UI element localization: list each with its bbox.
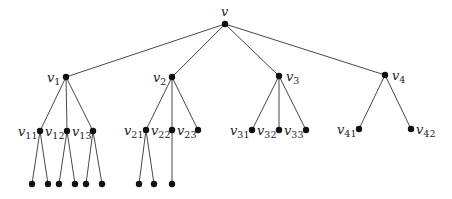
node-label-v12: v12: [45, 124, 64, 141]
edge-v-v2: [172, 24, 225, 77]
node-v42: [408, 126, 414, 132]
edges-layer: [32, 24, 411, 184]
edge-v-v3: [225, 24, 279, 76]
edge-v13-l132: [93, 131, 102, 184]
node-label-v32: v32: [257, 123, 276, 140]
node-label-v22: v22: [151, 123, 170, 140]
node-v11: [37, 128, 43, 134]
edge-v21-l212: [146, 130, 154, 184]
node-l122: [72, 181, 78, 187]
edge-v3-v31: [252, 76, 279, 130]
node-v12: [64, 128, 70, 134]
node-v: [222, 21, 228, 27]
node-l112: [45, 181, 51, 187]
node-label-v23: v23: [177, 123, 196, 140]
node-l212: [151, 181, 157, 187]
node-label-v4: v4: [392, 68, 405, 85]
node-l131: [83, 181, 89, 187]
node-label-v41: v41: [337, 122, 356, 139]
nodes-layer: [29, 21, 414, 187]
node-v32: [276, 127, 282, 133]
node-label-v13: v13: [72, 124, 91, 141]
node-v21: [143, 127, 149, 133]
edge-v1-v13: [66, 77, 93, 131]
node-v33: [303, 127, 309, 133]
edge-v-v4: [225, 24, 385, 75]
edge-v2-v23: [172, 77, 198, 130]
node-v41: [356, 126, 362, 132]
tree-diagram: vv1v2v3v4v11v12v13v21v22v23v31v32v33v41v…: [0, 0, 452, 199]
node-label-v: v: [221, 4, 229, 19]
edge-v1-v11: [40, 77, 66, 131]
edge-v1-v12: [66, 77, 67, 131]
node-label-v42: v42: [416, 122, 435, 139]
node-label-v33: v33: [284, 123, 303, 140]
node-l211: [136, 181, 142, 187]
node-label-v31: v31: [230, 123, 249, 140]
node-label-v3: v3: [286, 69, 299, 86]
node-l221: [169, 181, 175, 187]
node-label-v2: v2: [153, 70, 166, 87]
node-v1: [63, 74, 69, 80]
node-label-v11: v11: [18, 124, 37, 141]
node-v3: [276, 73, 282, 79]
node-l121: [56, 181, 62, 187]
node-v2: [169, 74, 175, 80]
node-v4: [382, 72, 388, 78]
edge-v4-v42: [385, 75, 411, 129]
node-label-v1: v1: [47, 70, 60, 87]
node-label-v21: v21: [124, 123, 143, 140]
node-v31: [249, 127, 255, 133]
node-l111: [29, 181, 35, 187]
node-l132: [99, 181, 105, 187]
edge-v-v1: [66, 24, 225, 77]
edge-v4-v41: [359, 75, 385, 129]
